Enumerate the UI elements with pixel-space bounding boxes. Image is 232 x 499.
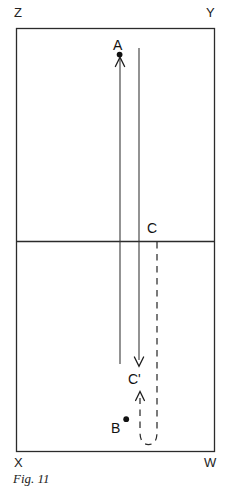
figure-caption: Fig. 11 <box>13 472 50 486</box>
path-dashed-uturn <box>140 242 157 445</box>
point-label-b: B <box>111 421 120 435</box>
vertex-label-w: W <box>204 456 217 469</box>
point-label-c-prime: C' <box>128 372 141 386</box>
vertex-label-y: Y <box>206 6 215 19</box>
vertex-label-x: X <box>14 456 23 469</box>
point-b-dot <box>123 416 129 422</box>
figure-container: Z Y W X A B C C' Fig. 11 <box>0 0 232 499</box>
point-label-a: A <box>113 38 122 52</box>
boundary-rectangle <box>17 29 215 452</box>
point-label-c: C <box>147 221 157 235</box>
vertex-label-z: Z <box>14 6 22 19</box>
